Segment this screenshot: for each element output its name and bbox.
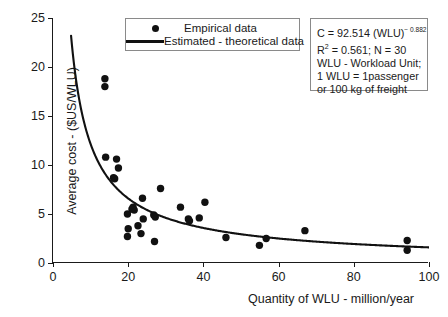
line-swatch-icon xyxy=(126,40,164,42)
y-axis-title-container: Average cost - ($US/WLU) xyxy=(0,18,22,263)
chart-legend: Empirical data Estimated - theoretical d… xyxy=(125,18,300,51)
x-tick-label-60: 60 xyxy=(272,271,286,284)
annotation-line-3: WLU - Workload Unit; xyxy=(317,57,427,70)
annotation-box: C = 92.514 (WLU)− 0.882 R2 = 0.561; N = … xyxy=(310,18,428,91)
legend-item-empirical: Empirical data xyxy=(126,22,299,35)
annotation-line-5: or 100 kg of freight xyxy=(317,83,427,96)
legend-label-empirical: Empirical data xyxy=(184,23,257,35)
annotation-equation-exponent: − 0.882 xyxy=(404,26,426,33)
x-axis-title: Quantity of WLU - million/year xyxy=(248,292,414,306)
annotation-equation: C = 92.514 (WLU)− 0.882 xyxy=(317,23,427,40)
x-tick-label-80: 80 xyxy=(347,271,361,284)
annotation-equation-text: C = 92.514 (WLU) xyxy=(317,27,404,39)
y-tick-label-0: 0 xyxy=(38,257,45,270)
legend-item-estimated: Estimated - theoretical data xyxy=(126,35,299,48)
y-tick-label-25: 25 xyxy=(31,12,45,25)
annotation-r-value: = 0.561; N = 30 xyxy=(329,43,406,55)
x-tick-label-20: 20 xyxy=(121,271,135,284)
chart-figure: Average cost - ($US/WLU) 25 20 15 10 5 0… xyxy=(0,0,448,317)
x-tick-100 xyxy=(429,262,430,267)
y-tick-label-5: 5 xyxy=(38,208,45,221)
y-tick-label-15: 15 xyxy=(31,110,45,123)
x-tick-label-0: 0 xyxy=(50,271,57,284)
legend-label-estimated: Estimated - theoretical data xyxy=(164,36,304,48)
y-tick-label-10: 10 xyxy=(31,159,45,172)
x-tick-label-100: 100 xyxy=(419,271,440,284)
annotation-line-4: 1 WLU = 1passenger xyxy=(317,70,427,83)
marker-dot-icon xyxy=(126,25,184,32)
annotation-rsquared: R2 = 0.561; N = 30 xyxy=(317,40,427,57)
y-tick-label-20: 20 xyxy=(31,61,45,74)
x-tick-label-40: 40 xyxy=(196,271,210,284)
annotation-r-label: R xyxy=(317,43,325,55)
data-points xyxy=(101,75,411,254)
